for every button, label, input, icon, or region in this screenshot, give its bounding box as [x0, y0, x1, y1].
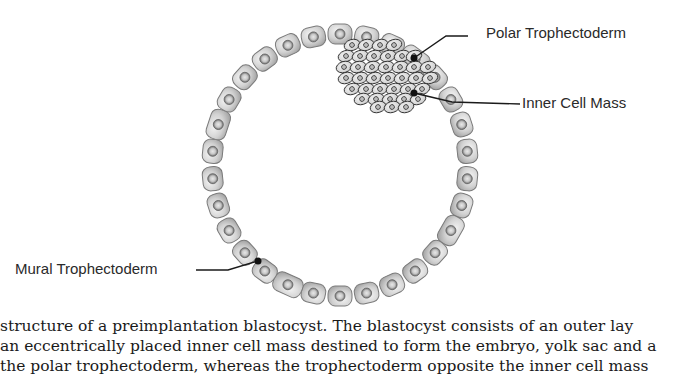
inner-cell-mass-label: Inner Cell Mass — [522, 94, 626, 111]
trophectoderm-cell — [202, 138, 224, 164]
blastocyst-diagram: Polar Trophectoderm Inner Cell Mass Mura… — [0, 0, 673, 310]
trophectoderm-cell — [202, 166, 224, 192]
caption-line-1: structure of a preimplantation blastocys… — [0, 316, 673, 336]
caption-line-2: an eccentrically placed inner cell mass … — [0, 336, 673, 356]
trophectoderm-cell — [456, 166, 478, 192]
polar-pointer-dot — [411, 55, 418, 62]
figure-caption: structure of a preimplantation blastocys… — [0, 316, 673, 376]
trophectoderm-cell — [273, 31, 303, 59]
icm-leader-line — [414, 93, 520, 104]
trophectoderm-cell — [205, 191, 231, 220]
caption-line-3: the polar trophectoderm, whereas the tro… — [0, 356, 673, 376]
inner-cell-mass-cluster — [335, 37, 440, 114]
trophectoderm-cell — [300, 281, 328, 306]
trophectoderm-cell — [456, 138, 478, 164]
polar-trophectoderm-label: Polar Trophectoderm — [486, 24, 626, 41]
trophectoderm-cell — [300, 25, 328, 50]
trophectoderm-cell — [353, 281, 381, 306]
icm-pointer-dot — [411, 90, 418, 97]
mural-trophectoderm-label: Mural Trophectoderm — [15, 260, 158, 277]
trophectoderm-cell — [377, 271, 407, 299]
mural-pointer-dot — [255, 258, 262, 265]
trophectoderm-cell — [448, 110, 474, 139]
trophectoderm-cell — [328, 286, 352, 306]
